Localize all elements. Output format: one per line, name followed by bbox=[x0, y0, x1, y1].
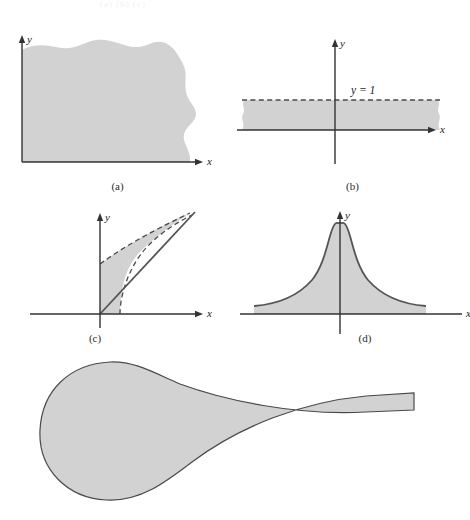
panel-a-y-axis-arrow bbox=[19, 35, 25, 43]
panel-b-x-axis-label: x bbox=[439, 123, 445, 135]
panel-b-y-axis-label: y bbox=[339, 37, 345, 49]
panel-a-y-axis-label: y bbox=[26, 33, 32, 45]
panel-a: y x bbox=[0, 14, 235, 184]
panel-e-svg bbox=[10, 352, 460, 520]
panel-b-equation-label: y = 1 bbox=[350, 84, 375, 97]
panel-b: y = 1 y x bbox=[235, 14, 470, 184]
math-figure: (a) (b) (c) y x (a) y = 1 y bbox=[0, 0, 470, 520]
panel-c-caption: (c) bbox=[55, 332, 135, 344]
panel-d-caption: (d) bbox=[325, 332, 405, 344]
panel-a-x-axis-label: x bbox=[206, 155, 212, 167]
panel-a-caption: (a) bbox=[0, 180, 235, 192]
panel-d-y-axis-label: y bbox=[344, 209, 350, 221]
panel-c-svg: y x bbox=[30, 196, 235, 351]
panel-d-svg: y x bbox=[240, 196, 470, 351]
panel-b-y-axis-arrow bbox=[332, 39, 338, 47]
panel-d: y x bbox=[240, 196, 470, 351]
page-header-text: (a) (b) (c) bbox=[100, 0, 360, 9]
panel-c-x-axis-label: x bbox=[206, 307, 212, 319]
panel-a-svg: y x bbox=[0, 14, 235, 184]
panel-a-region bbox=[22, 40, 196, 162]
panel-a-x-axis-arrow bbox=[195, 159, 203, 165]
panel-d-y-axis-arrow bbox=[337, 211, 343, 219]
panel-c-y-axis-label: y bbox=[104, 211, 110, 223]
panel-e bbox=[10, 352, 460, 520]
panel-c: y x bbox=[30, 196, 235, 351]
panel-c-y-axis-arrow bbox=[97, 213, 103, 221]
teardrop-shape bbox=[40, 362, 414, 500]
panel-b-caption: (b) bbox=[235, 180, 470, 192]
panel-c-x-axis-arrow bbox=[195, 311, 203, 317]
panel-b-svg: y = 1 y x bbox=[235, 14, 470, 184]
panel-d-x-axis-label: x bbox=[465, 307, 470, 319]
panel-b-region bbox=[242, 100, 440, 130]
